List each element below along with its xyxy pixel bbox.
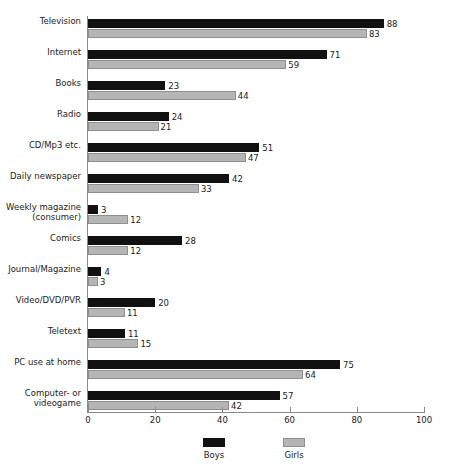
x-axis-tick	[222, 407, 223, 412]
bar-value-label: 3	[100, 277, 105, 286]
category-label: Books	[0, 78, 81, 88]
bar-value-label: 51	[262, 143, 273, 152]
chart-category-row: Internet7159	[88, 47, 424, 78]
bar-value-label: 44	[238, 91, 249, 100]
chart-category-row: Video/DVD/PVR2011	[88, 295, 424, 326]
legend-label: Girls	[264, 450, 324, 460]
bar-value-label: 20	[158, 298, 169, 307]
bar-boys: 20	[88, 298, 155, 307]
bar-value-label: 23	[168, 81, 179, 90]
x-axis-tick	[155, 407, 156, 412]
bar-girls: 44	[88, 91, 236, 100]
bar-value-label: 59	[288, 60, 299, 69]
bar-girls: 33	[88, 184, 199, 193]
bar-girls: 42	[88, 401, 229, 410]
bar-boys: 4	[88, 267, 101, 276]
chart-category-row: Weekly magazine (consumer)312	[88, 202, 424, 233]
x-axis-tick-label: 80	[351, 415, 362, 425]
category-label: Video/DVD/PVR	[0, 295, 81, 305]
chart-category-row: Daily newspaper4233	[88, 171, 424, 202]
legend-swatch-girls	[283, 438, 305, 447]
category-label: Internet	[0, 47, 81, 57]
chart-category-row: PC use at home7564	[88, 357, 424, 388]
bar-value-label: 12	[130, 215, 141, 224]
bar-boys: 88	[88, 19, 384, 28]
category-label: Computer- or videogame	[0, 388, 81, 408]
category-label: Weekly magazine (consumer)	[0, 202, 81, 222]
chart-category-row: CD/Mp3 etc.5147	[88, 140, 424, 171]
bar-boys: 3	[88, 205, 98, 214]
bar-boys: 23	[88, 81, 165, 90]
bar-boys: 24	[88, 112, 169, 121]
bar-girls: 83	[88, 29, 367, 38]
bar-value-label: 3	[101, 205, 106, 214]
category-label: Teletext	[0, 326, 81, 336]
bar-value-label: 21	[161, 122, 172, 131]
category-label: Journal/Magazine	[0, 264, 81, 274]
chart-legend: BoysGirls	[0, 438, 452, 466]
category-label: Television	[0, 16, 81, 26]
bar-boys: 71	[88, 50, 327, 59]
bar-value-label: 71	[330, 50, 341, 59]
plot-area: Television8883Internet7159Books2344Radio…	[88, 16, 424, 412]
bar-girls: 3	[88, 277, 98, 286]
bar-girls: 11	[88, 308, 125, 317]
bar-value-label: 88	[387, 19, 398, 28]
bar-girls: 47	[88, 153, 246, 162]
x-axis-tick-label: 40	[217, 415, 228, 425]
bar-value-label: 12	[130, 246, 141, 255]
bar-value-label: 15	[140, 339, 151, 348]
bar-value-label: 11	[128, 329, 139, 338]
bar-girls: 64	[88, 370, 303, 379]
bar-boys: 11	[88, 329, 125, 338]
legend-item-girls[interactable]: Girls	[264, 438, 324, 460]
bar-value-label: 57	[283, 391, 294, 400]
bar-value-label: 83	[369, 29, 380, 38]
category-label: Radio	[0, 109, 81, 119]
bar-boys: 51	[88, 143, 259, 152]
x-axis-tick	[88, 407, 89, 412]
chart-category-row: Radio2421	[88, 109, 424, 140]
bar-value-label: 11	[127, 308, 138, 317]
category-label: PC use at home	[0, 357, 81, 367]
bar-girls: 15	[88, 339, 138, 348]
chart-category-row: Comics2812	[88, 233, 424, 264]
bar-value-label: 42	[231, 401, 242, 410]
chart-category-row: Teletext1115	[88, 326, 424, 357]
bar-value-label: 42	[232, 174, 243, 183]
bar-value-label: 28	[185, 236, 196, 245]
bar-boys: 42	[88, 174, 229, 183]
x-axis-tick	[290, 407, 291, 412]
bar-chart: Television8883Internet7159Books2344Radio…	[0, 0, 452, 466]
legend-item-boys[interactable]: Boys	[184, 438, 244, 460]
bar-girls: 12	[88, 246, 128, 255]
x-axis-tick	[357, 407, 358, 412]
x-axis-tick-label: 100	[416, 415, 432, 425]
chart-category-row: Journal/Magazine43	[88, 264, 424, 295]
chart-category-row: Books2344	[88, 78, 424, 109]
legend-swatch-boys	[203, 438, 225, 447]
bar-value-label: 33	[201, 184, 212, 193]
bar-girls: 12	[88, 215, 128, 224]
x-axis-tick	[424, 407, 425, 412]
bar-value-label: 75	[343, 360, 354, 369]
legend-label: Boys	[184, 450, 244, 460]
category-label: CD/Mp3 etc.	[0, 140, 81, 150]
chart-category-row: Television8883	[88, 16, 424, 47]
chart-category-row: Computer- or videogame5742	[88, 388, 424, 419]
bar-boys: 75	[88, 360, 340, 369]
x-axis-tick-label: 20	[150, 415, 161, 425]
bar-boys: 28	[88, 236, 182, 245]
bar-girls: 21	[88, 122, 159, 131]
x-axis-tick-label: 60	[284, 415, 295, 425]
bar-value-label: 4	[104, 267, 109, 276]
bar-value-label: 47	[248, 153, 259, 162]
bar-girls: 59	[88, 60, 286, 69]
x-axis-tick-label: 0	[85, 415, 90, 425]
category-label: Comics	[0, 233, 81, 243]
category-label: Daily newspaper	[0, 171, 81, 181]
bar-value-label: 24	[172, 112, 183, 121]
bar-value-label: 64	[305, 370, 316, 379]
bar-boys: 57	[88, 391, 280, 400]
